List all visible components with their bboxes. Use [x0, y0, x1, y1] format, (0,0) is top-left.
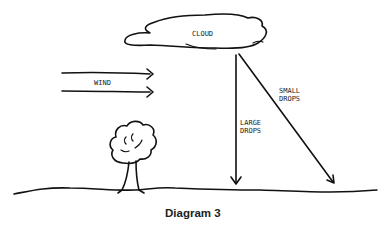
- diagram-caption: Diagram 3: [165, 207, 221, 219]
- large-drops-arrow: LARGE DROPS: [231, 55, 261, 184]
- wind-arrows: WIND: [62, 69, 153, 97]
- tree: [110, 121, 156, 193]
- ground-line: [14, 188, 377, 194]
- large-drops-label-line1: LARGE: [240, 119, 261, 127]
- diagram-canvas: CLOUD WIND LARGE DROPS SMALL DROPS Diag: [0, 0, 386, 225]
- small-drops-label-line2: DROPS: [279, 95, 300, 103]
- cloud: CLOUD: [125, 14, 267, 49]
- large-drops-label-line2: DROPS: [240, 127, 261, 135]
- cloud-label: CLOUD: [192, 30, 213, 38]
- small-drops-label-line1: SMALL: [279, 87, 300, 95]
- wind-label: WIND: [94, 79, 111, 87]
